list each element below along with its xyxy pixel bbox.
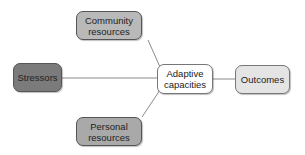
- node-adaptive-line2: capacities: [164, 79, 206, 90]
- node-adaptive-line1: Adaptive: [164, 68, 206, 79]
- edge-community-adaptive: [148, 40, 160, 67]
- node-outcomes-label: Outcomes: [241, 74, 284, 85]
- node-personal-line2: resources: [88, 132, 130, 143]
- node-stressors: Stressors: [13, 63, 62, 92]
- node-community-resources: Community resources: [76, 11, 142, 40]
- node-personal-resources: Personal resources: [76, 117, 142, 146]
- node-outcomes: Outcomes: [235, 65, 290, 94]
- node-personal-line1: Personal: [88, 121, 130, 132]
- node-stressors-label: Stressors: [17, 72, 57, 83]
- edge-personal-adaptive: [142, 90, 160, 117]
- node-community-line2: resources: [85, 26, 133, 37]
- node-community-line1: Community: [85, 15, 133, 26]
- node-adaptive-capacities: Adaptive capacities: [157, 64, 213, 94]
